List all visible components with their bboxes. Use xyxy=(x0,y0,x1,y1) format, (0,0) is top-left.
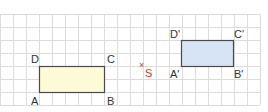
vertex-label-a-prime: A' xyxy=(170,69,179,80)
vertex-label-a: A xyxy=(31,96,38,107)
vertex-label-c-prime: C' xyxy=(234,29,244,40)
vertex-label-d: D xyxy=(31,54,39,65)
grid-diagram xyxy=(0,0,268,112)
center-label-s: S xyxy=(145,68,152,79)
vertex-label-b: B xyxy=(107,96,114,107)
rectangle-abcd-prime xyxy=(182,41,234,67)
vertex-label-b-prime: B' xyxy=(234,69,243,80)
rectangle-abcd xyxy=(40,67,105,93)
center-cross-icon: × xyxy=(139,61,144,70)
vertex-label-c: C xyxy=(107,54,115,65)
vertex-label-d-prime: D' xyxy=(170,29,180,40)
